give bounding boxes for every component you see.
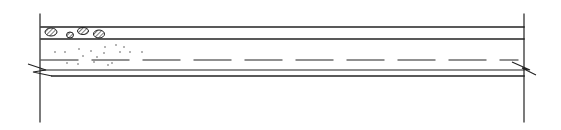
- stipple-dots: [54, 44, 142, 65]
- section-drawing: [0, 0, 561, 130]
- aggregate-stones: [45, 28, 105, 39]
